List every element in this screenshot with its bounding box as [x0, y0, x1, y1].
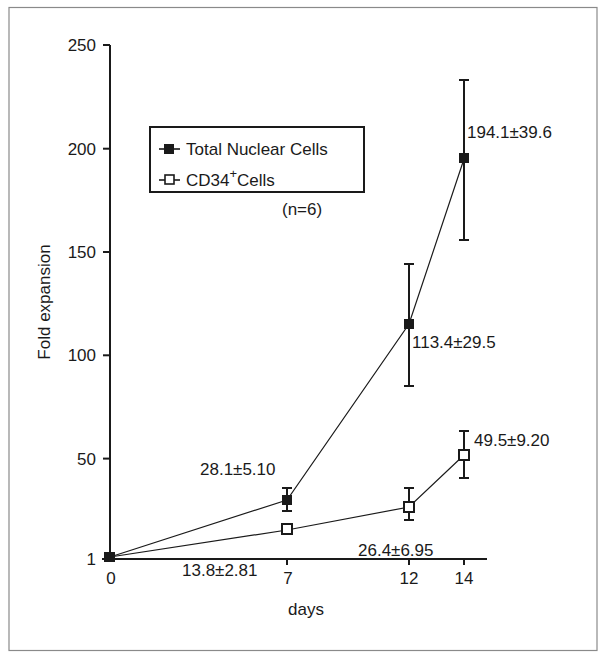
label-cd34-d12: 26.4±6.95: [358, 541, 434, 560]
x-tick-14: 14: [455, 569, 474, 588]
y-tick-1: 1: [87, 550, 96, 569]
label-total-d12: 113.4±29.5: [412, 333, 496, 352]
open-square-marker: [404, 502, 414, 512]
y-tick-250: 250: [68, 36, 96, 55]
x-tick-7: 7: [283, 569, 292, 588]
filled-square-marker: [459, 153, 469, 163]
y-tick-200: 200: [68, 140, 96, 159]
label-cd34-d7: 13.8±2.81: [182, 561, 258, 580]
label-total-d14: 194.1±39.6: [467, 123, 552, 142]
label-cd34-d14: 49.5±9.20: [474, 431, 550, 450]
y-tick-50: 50: [77, 450, 96, 469]
open-square-marker: [282, 524, 292, 534]
y-tick-100: 100: [68, 346, 96, 365]
filled-square-marker: [282, 495, 292, 505]
x-tick-0: 0: [106, 569, 115, 588]
legend-label-total: Total Nuclear Cells: [186, 140, 328, 159]
label-total-d7: 28.1±5.10: [200, 460, 276, 479]
open-square-marker: [165, 175, 174, 184]
figure-frame: [9, 8, 597, 651]
sample-size-note: (n=6): [282, 200, 322, 219]
y-tick-150: 150: [68, 243, 96, 262]
open-square-marker: [459, 450, 469, 460]
y-axis-label: Fold expansion: [35, 244, 54, 359]
x-tick-12: 12: [400, 569, 419, 588]
fold-expansion-chart: 250 200 150 100 50 1 Fold expansion 0 7 …: [0, 0, 606, 657]
filled-square-marker: [404, 319, 414, 329]
filled-square-marker: [164, 144, 174, 154]
x-axis-label: days: [288, 600, 324, 619]
